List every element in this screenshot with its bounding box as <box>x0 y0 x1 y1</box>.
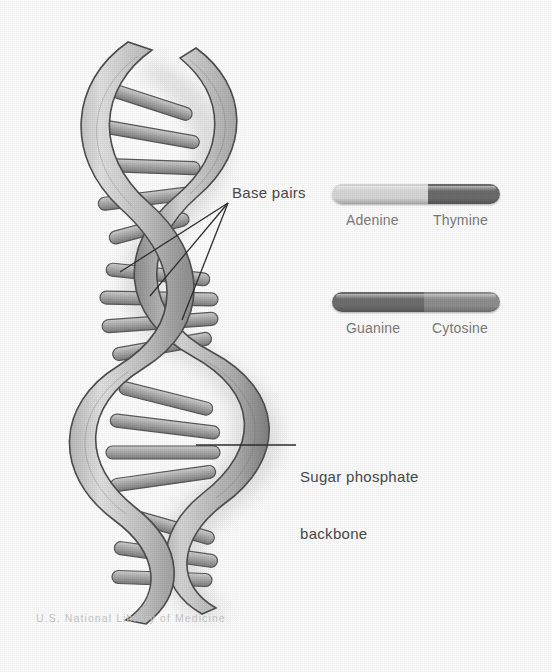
base-pair-bar <box>332 184 500 204</box>
rung <box>106 446 220 459</box>
legend-pair-adenine-thymine: Adenine Thymine <box>332 184 500 204</box>
base-pair-bar <box>332 292 500 312</box>
base-pair-names: Guanine Cytosine <box>332 320 500 336</box>
base-label-thymine: Thymine <box>433 212 488 228</box>
legend-pair-guanine-cytosine: Guanine Cytosine <box>332 292 500 312</box>
base-pairs-annotation: Base pairs <box>232 184 306 201</box>
bar-half-right <box>424 292 500 312</box>
backbone-annotation-line1: Sugar phosphate <box>300 467 419 486</box>
backbone-annotation: Sugar phosphate backbone <box>300 429 419 581</box>
rung <box>110 413 221 439</box>
base-label-adenine: Adenine <box>346 212 399 228</box>
bar-half-left <box>332 184 428 204</box>
rung <box>100 119 201 149</box>
dna-figure: Base pairs Sugar phosphate backbone Aden… <box>0 0 552 672</box>
base-label-cytosine: Cytosine <box>432 320 488 336</box>
dna-helix-illustration <box>0 0 552 672</box>
source-credit: U.S. National Library of Medicine <box>36 612 226 624</box>
bar-half-left <box>332 292 424 312</box>
rung <box>110 465 217 493</box>
bar-half-right <box>428 184 500 204</box>
base-pair-names: Adenine Thymine <box>332 212 500 228</box>
base-label-guanine: Guanine <box>346 320 400 336</box>
backbone-annotation-line2: backbone <box>300 524 419 543</box>
rung <box>118 381 214 417</box>
